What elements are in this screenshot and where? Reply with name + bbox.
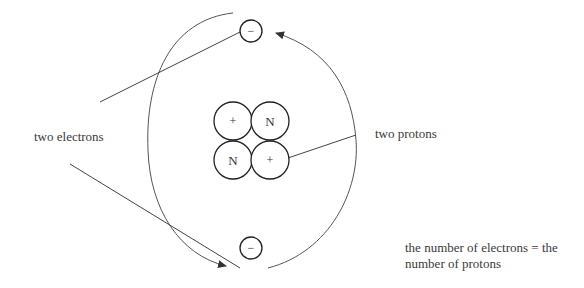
electron-bottom-symbol: −: [248, 241, 255, 255]
electron-bottom: −: [240, 237, 262, 259]
nucleon-neutron-2: N: [228, 153, 238, 168]
electron-pointer-bottom: [70, 164, 240, 268]
proton-pointer: [282, 135, 356, 160]
nucleus: + N N +: [214, 102, 289, 179]
electron-top-symbol: −: [248, 24, 255, 38]
electron-pointer-top: [100, 32, 240, 102]
nucleon-proton-1: +: [230, 114, 237, 128]
electron-top: −: [240, 20, 262, 42]
nucleon-neutron-1: N: [265, 114, 275, 129]
nucleon-proton-2: +: [267, 153, 274, 167]
label-note-line2: number of protons: [405, 256, 501, 272]
label-two-protons: two protons: [375, 126, 437, 142]
orbit-left-arc: [148, 13, 233, 266]
label-note-line1: the number of electrons = the: [405, 240, 558, 256]
label-two-electrons: two electrons: [34, 129, 104, 145]
